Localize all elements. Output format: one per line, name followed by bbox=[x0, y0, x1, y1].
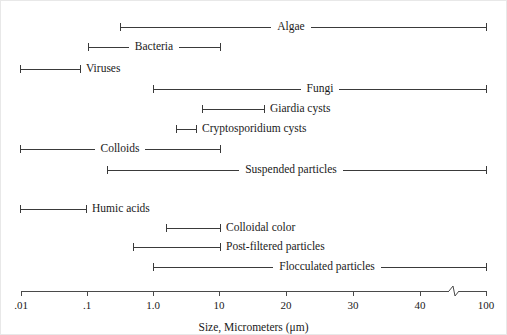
range-row: Humic acids bbox=[20, 202, 150, 214]
range-row: Colloidal color bbox=[166, 221, 295, 233]
range-label: Flocculated particles bbox=[279, 260, 375, 273]
range-label: Cryptosporidium cysts bbox=[202, 122, 307, 135]
range-row: Cryptosporidium cysts bbox=[176, 122, 307, 135]
range-label: Fungi bbox=[307, 82, 334, 95]
range-label: Bacteria bbox=[135, 40, 173, 52]
axis-tick-label: .01 bbox=[14, 299, 28, 311]
range-label: Post-filtered particles bbox=[226, 240, 325, 253]
range-label: Algae bbox=[277, 20, 304, 33]
chart-plot-area: AlgaeBacteriaVirusesFungiGiardia cystsCr… bbox=[1, 1, 507, 335]
range-label: Colloidal color bbox=[226, 221, 295, 233]
x-axis-title: Size, Micrometers (μm) bbox=[199, 321, 309, 334]
axis-tick-label: 40 bbox=[415, 299, 427, 311]
range-row: Algae bbox=[120, 20, 486, 33]
axis-tick-label: 100 bbox=[478, 299, 495, 311]
range-row: Suspended particles bbox=[107, 163, 486, 176]
size-range-chart: AlgaeBacteriaVirusesFungiGiardia cystsCr… bbox=[0, 0, 507, 335]
range-row: Bacteria bbox=[88, 40, 220, 52]
range-row: Giardia cysts bbox=[202, 102, 331, 115]
range-label: Colloids bbox=[101, 142, 141, 154]
range-label: Suspended particles bbox=[245, 163, 337, 176]
range-row: Colloids bbox=[20, 142, 220, 154]
range-row: Flocculated particles bbox=[153, 260, 486, 273]
range-row: Fungi bbox=[153, 82, 486, 95]
range-row: Post-filtered particles bbox=[133, 240, 325, 253]
axis-tick-label: 1.0 bbox=[146, 299, 160, 311]
range-label: Humic acids bbox=[92, 202, 150, 214]
axis-break-icon bbox=[449, 286, 459, 296]
range-row: Viruses bbox=[20, 62, 121, 74]
range-label: Giardia cysts bbox=[270, 102, 331, 115]
x-axis: .01.11.010203040100 bbox=[14, 286, 495, 311]
range-label: Viruses bbox=[86, 62, 121, 74]
axis-tick-label: .1 bbox=[83, 299, 91, 311]
axis-tick-label: 30 bbox=[348, 299, 360, 311]
axis-tick-label: 20 bbox=[281, 299, 293, 311]
axis-tick-label: 10 bbox=[214, 299, 226, 311]
